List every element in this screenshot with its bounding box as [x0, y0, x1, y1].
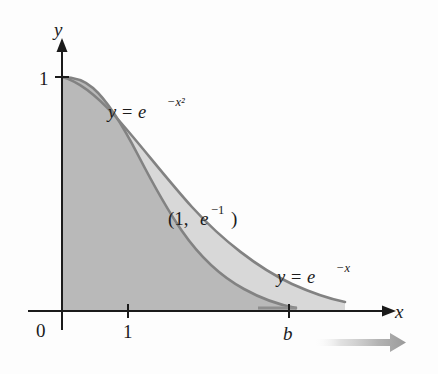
exponential-curve-label: y = e −x — [275, 261, 350, 287]
intersection-point-label: (1, e −1 ) — [168, 203, 237, 230]
intersection-label-close: ) — [231, 208, 237, 230]
intersection-label-open: (1, — [168, 208, 189, 230]
gaussian-curve-label-base: y = e — [106, 102, 146, 122]
gaussian-curve-label-exponent: −x² — [167, 95, 185, 109]
y-axis-label: y — [52, 19, 63, 40]
figure-canvas: x y 0 1 b 1 y = e −x² y = e −x (1, e −1 … — [0, 0, 438, 374]
origin-label: 0 — [36, 320, 46, 341]
math-figure: x y 0 1 b 1 y = e −x² y = e −x (1, e −1 … — [0, 0, 438, 374]
exponential-curve-label-exponent: −x — [336, 261, 350, 275]
y-axis-arrowhead — [57, 38, 68, 52]
intersection-label-exponent: −1 — [211, 203, 224, 217]
x-tick-label-b: b — [283, 323, 293, 344]
gaussian-curve-label: y = e −x² — [106, 95, 185, 122]
x-axis-label: x — [394, 301, 404, 322]
x-tick-label-1: 1 — [123, 321, 133, 342]
exponential-curve-label-base: y = e — [275, 267, 315, 287]
x-axis-arrowhead — [382, 306, 396, 317]
intersection-label-base: e — [200, 208, 208, 229]
y-tick-label-1: 1 — [39, 68, 49, 89]
b-to-infinity-arrow — [313, 333, 406, 352]
